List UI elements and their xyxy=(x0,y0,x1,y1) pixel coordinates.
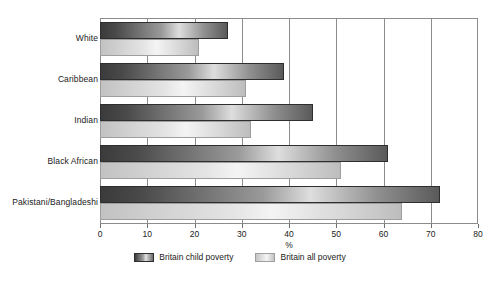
x-tick-mark xyxy=(100,224,101,228)
x-tick-mark xyxy=(336,224,337,228)
chart-legend: Britain child povertyBritain all poverty xyxy=(0,252,480,262)
legend-label: Britain child poverty xyxy=(159,252,233,262)
x-tick-mark xyxy=(242,224,243,228)
legend-label: Britain all poverty xyxy=(280,252,345,262)
x-tick-mark xyxy=(147,224,148,228)
bar-child-poverty xyxy=(100,22,228,39)
x-tick-mark xyxy=(289,224,290,228)
category-axis-labels: WhiteCaribbeanIndianBlack AfricanPakista… xyxy=(0,18,98,224)
category-label: Pakistani/Bangladeshi xyxy=(2,197,98,207)
x-axis-title: % xyxy=(285,240,293,250)
x-tick-label: 40 xyxy=(284,229,293,239)
bar-child-poverty xyxy=(100,104,313,121)
bars-layer xyxy=(100,18,478,224)
bar-all-poverty xyxy=(100,203,402,220)
x-tick-label: 50 xyxy=(332,229,341,239)
category-label: Black African xyxy=(2,156,98,166)
bar-all-poverty xyxy=(100,162,341,179)
x-tick-label: 0 xyxy=(98,229,103,239)
category-label: Indian xyxy=(2,115,98,125)
bar-all-poverty xyxy=(100,80,246,97)
x-tick-label: 10 xyxy=(143,229,152,239)
bar-child-poverty xyxy=(100,63,284,80)
bar-child-poverty xyxy=(100,186,440,203)
bar-all-poverty xyxy=(100,121,251,138)
light-gradient-swatch xyxy=(255,253,275,262)
x-tick-label: 30 xyxy=(237,229,246,239)
x-tick-mark xyxy=(195,224,196,228)
legend-item: Britain child poverty xyxy=(134,252,233,262)
x-tick-label: 20 xyxy=(190,229,199,239)
x-tick-mark xyxy=(384,224,385,228)
category-label: White xyxy=(2,33,98,43)
dark-gradient-swatch xyxy=(134,253,154,262)
category-label: Caribbean xyxy=(2,74,98,84)
x-tick-mark xyxy=(478,224,479,228)
x-tick-label: 60 xyxy=(379,229,388,239)
x-tick-label: 80 xyxy=(473,229,482,239)
bar-child-poverty xyxy=(100,145,388,162)
legend-item: Britain all poverty xyxy=(255,252,345,262)
x-tick-mark xyxy=(431,224,432,228)
bar-all-poverty xyxy=(100,39,199,56)
x-tick-label: 70 xyxy=(426,229,435,239)
